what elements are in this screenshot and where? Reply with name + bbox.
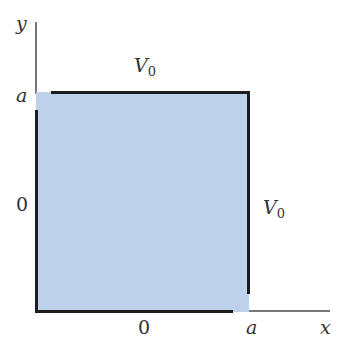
right-boundary-label: V0: [263, 198, 285, 220]
top-label-main: V: [134, 54, 148, 76]
right-label-sub: 0: [277, 206, 285, 221]
left-boundary-label: 0: [16, 195, 28, 214]
x-tick-a: a: [246, 318, 257, 337]
y-tick-a: a: [16, 86, 27, 105]
right-boundary: [247, 91, 250, 294]
right-label-main: V: [263, 196, 277, 218]
bottom-boundary: [36, 310, 233, 313]
left-boundary: [35, 110, 38, 313]
top-boundary-label: V0: [134, 56, 156, 78]
x-axis-label: x: [320, 318, 331, 337]
top-label-sub: 0: [148, 64, 156, 79]
x-axis: [249, 310, 330, 312]
y-axis-label: y: [16, 14, 27, 33]
square-region: [36, 92, 249, 312]
bottom-boundary-label: 0: [138, 318, 150, 337]
y-axis: [35, 22, 37, 94]
top-boundary: [51, 91, 249, 94]
